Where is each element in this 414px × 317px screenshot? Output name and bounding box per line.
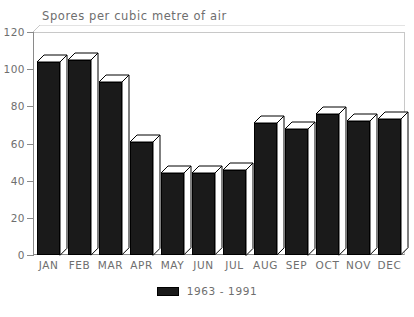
x-axis-label-sep: SEP	[282, 259, 311, 271]
spores-bar-chart: Spores per cubic metre of air 1201008060…	[0, 0, 414, 317]
bar-aug	[254, 123, 277, 255]
x-axis-label-aug: AUG	[251, 259, 280, 271]
y-axis-tick-label: 120	[1, 26, 25, 38]
legend-swatch-icon	[157, 287, 179, 296]
bar-3d-shell	[316, 107, 348, 255]
bar-3d-shell	[68, 53, 100, 255]
legend-label: 1963 - 1991	[187, 285, 258, 297]
y-axis-tick	[27, 255, 34, 256]
bar-jun	[192, 173, 215, 255]
bar-3d-shell	[130, 135, 162, 255]
x-axis-label-apr: APR	[127, 259, 156, 271]
bar-3d-shell	[161, 166, 193, 255]
y-axis-tick-label: 20	[1, 212, 25, 224]
bar-3d-shell	[37, 55, 69, 255]
bar-feb	[68, 60, 91, 255]
y-axis-tick-label: 60	[1, 138, 25, 150]
x-axis-label-jun: JUN	[189, 259, 218, 271]
bar-3d-shell	[285, 122, 317, 255]
bar-apr	[130, 142, 153, 255]
y-axis-tick-label: 0	[1, 249, 25, 261]
bar-mar	[99, 82, 122, 255]
y-axis-tick-label: 40	[1, 175, 25, 187]
x-axis-label-feb: FEB	[65, 259, 94, 271]
x-axis-label-jul: JUL	[220, 259, 249, 271]
chart-legend: 1963 - 1991	[0, 285, 414, 297]
bar-oct	[316, 114, 339, 255]
bar-sep	[285, 129, 308, 255]
x-axis-label-nov: NOV	[344, 259, 373, 271]
x-axis-label-jan: JAN	[34, 259, 63, 271]
bar-dec	[378, 119, 401, 255]
bar-3d-shell	[99, 75, 131, 255]
x-axis-label-may: MAY	[158, 259, 187, 271]
x-axis-label-dec: DEC	[375, 259, 404, 271]
bar-3d-shell	[254, 116, 286, 255]
bar-3d-shell	[223, 163, 255, 255]
y-axis-tick-label: 100	[1, 63, 25, 75]
bar-3d-shell	[192, 166, 224, 255]
bar-nov	[347, 121, 370, 255]
y-axis-tick-label: 80	[1, 100, 25, 112]
x-axis-label-mar: MAR	[96, 259, 125, 271]
bar-may	[161, 173, 184, 255]
bar-jul	[223, 170, 246, 255]
bar-3d-shell	[347, 114, 379, 255]
bar-jan	[37, 62, 60, 255]
bars-layer	[33, 32, 405, 255]
bar-3d-shell	[378, 112, 410, 255]
chart-title: Spores per cubic metre of air	[42, 9, 227, 23]
x-axis-label-oct: OCT	[313, 259, 342, 271]
